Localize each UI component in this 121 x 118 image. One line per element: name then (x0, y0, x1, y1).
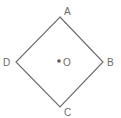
square-diagram: A B C D O (0, 0, 121, 118)
vertex-label-b: B (107, 57, 114, 68)
vertex-label-c: C (64, 107, 71, 118)
vertex-label-d: D (3, 57, 10, 68)
center-label-o: O (63, 57, 71, 68)
vertex-label-a: A (64, 6, 71, 17)
center-point-o (57, 59, 61, 63)
